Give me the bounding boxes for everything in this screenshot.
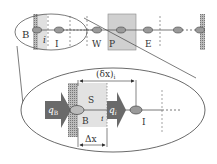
- label-Delta-x: Δx: [85, 134, 97, 144]
- top-grid-row: B i I W P E: [22, 14, 205, 50]
- label-W: W: [92, 39, 102, 49]
- label-i: i: [43, 35, 46, 45]
- node-icon: [144, 27, 153, 33]
- node-icon: [196, 27, 205, 33]
- interior-node-icon: [130, 106, 142, 114]
- node-icon: [33, 27, 42, 33]
- label-B-detail: B: [82, 116, 89, 126]
- node-icon: [117, 27, 126, 33]
- zoom-connector-left: [17, 46, 23, 104]
- node-icon: [93, 27, 102, 33]
- diagram-canvas: B i I W P E (δx)i Δx S: [0, 0, 217, 164]
- zoom-detail: (δx)i Δx S B i I qB qi: [21, 68, 205, 152]
- grid-nodes: [33, 27, 205, 33]
- boundary-node-icon: [70, 106, 84, 115]
- label-B: B: [22, 29, 29, 40]
- label-S: S: [88, 95, 94, 105]
- label-I: I: [55, 39, 59, 49]
- node-icon: [55, 27, 64, 33]
- label-E: E: [145, 39, 152, 49]
- label-P: P: [109, 39, 115, 49]
- label-I-detail: I: [142, 117, 146, 127]
- node-icon: [174, 27, 183, 33]
- label-i-detail: i: [101, 114, 104, 123]
- label-delta-x-i: (δx)i: [96, 69, 116, 80]
